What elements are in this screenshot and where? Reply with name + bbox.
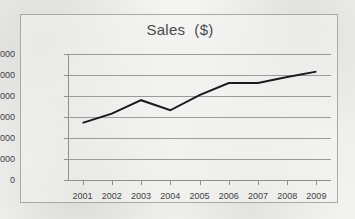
x-tick-2003 [141, 181, 142, 185]
y-tick-label-200000: 200000 [0, 91, 15, 101]
x-tick-label-2008: 2008 [277, 191, 297, 201]
x-tick-2004 [170, 181, 171, 185]
x-tick-label-2009: 2009 [306, 191, 326, 201]
x-tick-2007 [258, 181, 259, 185]
x-tick-label-2001: 2001 [73, 191, 93, 201]
x-tick-2006 [229, 181, 230, 185]
plot-area: 200120022003200420052006200720082009 [68, 54, 331, 180]
x-tick-2005 [200, 181, 201, 185]
chart-title: Sales ($) [21, 21, 339, 38]
y-tick-label-100000: 100000 [0, 133, 15, 143]
y-tick-label-250000: 250000 [0, 70, 15, 80]
x-tick-label-2004: 2004 [160, 191, 180, 201]
x-tick-2009 [316, 181, 317, 185]
y-tick-label-300000: 300000 [0, 49, 15, 59]
chart-frame: Sales ($) 050000100000150000200000250000… [20, 14, 338, 203]
y-tick-label-0: 0 [0, 175, 15, 185]
y-tick-label-150000: 150000 [0, 112, 15, 122]
x-tick-2001 [83, 181, 84, 185]
x-tick-label-2003: 2003 [131, 191, 151, 201]
x-tick-2002 [112, 181, 113, 185]
page-background: Sales ($) 050000100000150000200000250000… [0, 0, 355, 219]
x-tick-2008 [287, 181, 288, 185]
y-axis-labels: 050000100000150000200000250000300000 [0, 54, 15, 180]
x-tick-label-2007: 2007 [248, 191, 268, 201]
x-tick-label-2005: 2005 [189, 191, 209, 201]
x-tick-label-2006: 2006 [219, 191, 239, 201]
x-tick-label-2002: 2002 [102, 191, 122, 201]
y-tick-label-50000: 50000 [0, 154, 15, 164]
series-polyline [83, 72, 317, 123]
series-line-sales [68, 54, 331, 181]
